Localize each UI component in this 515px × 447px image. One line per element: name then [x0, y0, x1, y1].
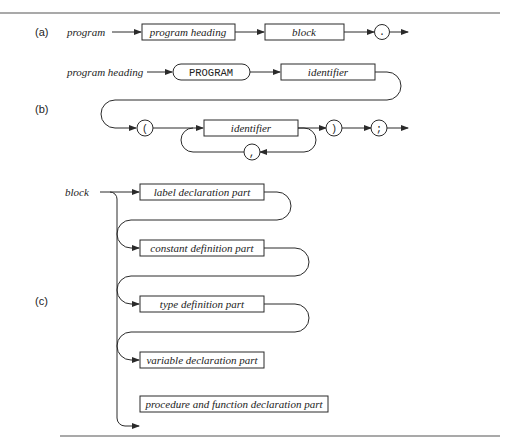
part-c-block: block (c) label declaration part constan…	[35, 184, 328, 426]
part-b-label: (b)	[35, 103, 48, 115]
node-block-label: block	[292, 26, 317, 38]
svg-text:variable declaration part: variable declaration part	[146, 354, 258, 366]
rule-name-program-heading: program heading	[66, 66, 144, 78]
svg-text:procedure and function declara: procedure and function declaration part	[145, 398, 324, 410]
svg-text:): )	[331, 124, 337, 135]
svg-text:;: ;	[376, 124, 382, 135]
svg-text:identifier: identifier	[308, 66, 349, 78]
part-b-program-heading: program heading PROGRAM identifier (b) (…	[35, 64, 408, 160]
svg-text:PROGRAM: PROGRAM	[189, 67, 233, 79]
syntax-diagram: (a) program program heading block . prog…	[0, 0, 515, 447]
svg-text:.: .	[379, 27, 385, 38]
rule-name-program: program	[66, 26, 105, 38]
svg-text:(: (	[142, 124, 148, 135]
svg-text:type definition part: type definition part	[160, 298, 245, 310]
rule-name-block: block	[65, 186, 90, 198]
part-a-label: (a)	[35, 26, 48, 38]
svg-text:identifier: identifier	[231, 122, 272, 134]
svg-text:constant definition part: constant definition part	[150, 242, 254, 254]
svg-text:label declaration part: label declaration part	[154, 186, 251, 198]
part-a-program: (a) program program heading block .	[35, 24, 408, 40]
part-c-label: (c)	[35, 295, 48, 307]
svg-text:,: ,	[249, 148, 255, 159]
node-program-heading-label: program heading	[149, 26, 227, 38]
